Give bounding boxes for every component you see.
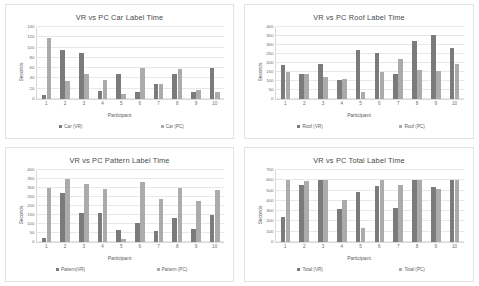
y-axis-label: Seconds [258,205,263,224]
y-axis-tick: 350 [27,177,34,181]
legend-label: Total (VR) [302,267,322,272]
bar [455,64,460,99]
bar [412,180,417,242]
x-axis-tick: 8 [416,245,419,250]
y-axis-tick: 0 [32,97,34,101]
y-axis-label: Seconds [258,62,263,81]
bar-group: 3 [74,170,93,242]
x-axis-tick: 6 [378,245,381,250]
plot-wrap: 010020030040050060070012345678910 [275,170,464,243]
bar [84,184,89,243]
bar-group: 9 [426,27,445,99]
plot-wrap: 05010015020025030035040012345678910 [275,27,464,100]
x-axis-tick: 5 [359,245,362,250]
chart-legend: Total (VR) Total (PC) [259,267,463,272]
bar-group: 4 [93,27,112,99]
bar [436,189,441,242]
bar [450,180,455,242]
legend-item-pc: Total (PC) [399,267,425,272]
bar-group: 1 [37,27,56,99]
bar [323,77,328,99]
y-axis-tick: 100 [27,45,34,49]
y-axis-tick: 50 [269,88,274,92]
bar [393,74,398,99]
x-axis-tick: 1 [284,245,287,250]
bar [323,180,328,242]
bar [121,239,126,242]
y-axis-tick: 150 [27,213,34,217]
y-axis-tick: 60 [30,66,35,70]
x-axis-label: Participant [6,112,233,118]
bar [318,64,323,99]
bar-group: 2 [56,170,75,242]
bar-group: 8 [408,27,427,99]
bar [286,180,291,242]
bar [196,201,201,242]
bar [342,79,347,99]
legend-swatch-icon [56,268,59,271]
bar [159,199,164,242]
bar [431,187,436,242]
bar [455,180,460,242]
bar [342,200,347,242]
x-axis-tick: 5 [359,102,362,107]
bar [65,81,70,99]
x-axis-tick: 2 [303,102,306,107]
bar [356,50,361,99]
bar [318,180,323,242]
y-axis-tick: 500 [266,188,273,192]
bar-group: 2 [295,170,314,242]
y-axis-tick: 0 [271,97,273,101]
legend-item-pc: Car (PC) [161,124,184,129]
bar [286,72,291,99]
legend-item-vr: Total (VR) [297,267,323,272]
bar [140,182,145,242]
y-axis-tick: 40 [30,76,35,80]
bar-group: 7 [389,170,408,242]
bar [450,48,455,99]
bar-group: 10 [205,170,224,242]
chart-grid: VR vs PC Car Label Time Seconds 02040608… [0,0,479,286]
x-axis-tick: 9 [434,245,437,250]
plot-wrap: 05010015020025030035040012345678910 [36,170,224,243]
chart-legend: Car (VR) Car (PC) [20,124,223,129]
bar [380,180,385,242]
x-axis-tick: 8 [176,245,179,250]
y-axis-tick: 400 [27,168,34,172]
legend-label: Roof (VR) [302,124,322,129]
y-axis-tick: 20 [30,87,35,91]
plot-wrap: 02040608010012014012345678910 [36,27,224,100]
chart-cell-total: VR vs PC Total Label Time Seconds 010020… [239,143,479,286]
bar [304,74,309,99]
bar-group: 10 [445,27,464,99]
y-axis-tick: 200 [27,204,34,208]
bar-group: 8 [168,170,187,242]
plot-area: 05010015020025030035040012345678910 [36,170,224,243]
chart-frame: VR vs PC Total Label Time Seconds 010020… [244,147,474,282]
x-axis-tick: 3 [82,102,85,107]
bar [47,38,52,99]
bar [375,186,380,242]
legend-swatch-icon [297,268,300,271]
bar [84,74,89,99]
bar [299,185,304,242]
y-axis-tick: 300 [266,209,273,213]
bar [380,72,385,99]
bar [210,68,215,99]
y-axis-label: Seconds [19,205,24,224]
bar [281,217,286,242]
bars-layer: 12345678910 [37,170,224,242]
bar [135,92,140,99]
x-axis-tick: 4 [101,245,104,250]
x-axis-tick: 5 [120,245,123,250]
bar [98,213,103,242]
y-axis-tick: 300 [27,186,34,190]
bar [398,59,403,99]
bar [178,69,183,99]
chart-title: VR vs PC Roof Label Time [245,13,473,22]
chart-cell-car: VR vs PC Car Label Time Seconds 02040608… [0,0,239,143]
bar [47,188,52,242]
y-axis-tick: 250 [27,195,34,199]
x-axis-tick: 1 [45,102,48,107]
y-axis-tick: 80 [30,56,35,60]
